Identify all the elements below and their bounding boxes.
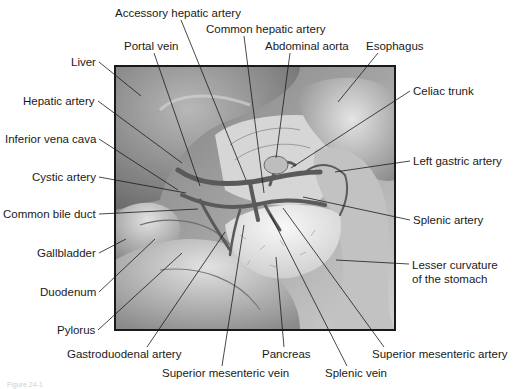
label-celiac-trunk: Celiac trunk [413, 85, 474, 98]
label-common-hepatic-artery: Common hepatic artery [206, 23, 326, 36]
label-cystic-artery: Cystic artery [32, 171, 96, 184]
label-superior-mesenteric-artery: Superior mesenteric artery [372, 348, 508, 361]
label-pancreas: Pancreas [262, 348, 311, 361]
label-left-gastric-artery: Left gastric artery [413, 155, 502, 168]
label-pylorus: Pylorus [57, 324, 95, 337]
label-gallbladder: Gallbladder [37, 247, 96, 260]
label-inferior-vena-cava: Inferior vena cava [5, 133, 96, 146]
label-abdominal-aorta: Abdominal aorta [265, 40, 349, 53]
label-hepatic-artery: Hepatic artery [23, 95, 95, 108]
label-liver: Liver [71, 56, 96, 69]
label-splenic-artery: Splenic artery [413, 214, 483, 227]
label-portal-vein: Portal vein [124, 40, 178, 53]
figure-caption: Figure 24-1 [7, 381, 43, 388]
label-duodenum: Duodenum [40, 286, 96, 299]
anatomy-diagram: Accessory hepatic arteryCommon hepatic a… [0, 0, 514, 389]
label-lesser-curvature-of-the-stomach: Lesser curvatureof the stomach [412, 258, 498, 286]
label-gastroduodenal-artery: Gastroduodenal artery [67, 348, 181, 361]
illustration-body [115, 66, 395, 330]
label-esophagus: Esophagus [366, 40, 424, 53]
label-splenic-vein: Splenic vein [325, 367, 387, 380]
label-common-bile-duct: Common bile duct [3, 208, 96, 221]
label-accessory-hepatic-artery: Accessory hepatic artery [115, 7, 241, 20]
label-superior-mesenteric-vein: Superior mesenteric vein [162, 367, 289, 380]
